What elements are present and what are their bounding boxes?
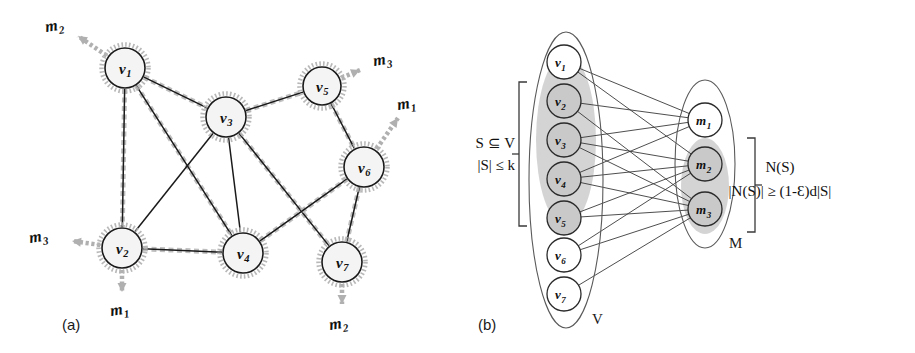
panel-caption-a: (a) (62, 316, 80, 333)
message-label-sub: 2 (57, 23, 66, 36)
subset-S-annotation-line2: |S| ≤ k (477, 157, 515, 173)
set-name-V: V (592, 311, 603, 327)
node-label-sub: 1 (707, 121, 712, 131)
node-V-v7[interactable]: v7 (547, 277, 581, 311)
edge-v1-v2 (122, 89, 124, 227)
edge-line (229, 138, 241, 232)
figure-svg: m2m3m1m3m1m2v1v2v3v4v5v6v7 v1v2v3v4v5v6v… (0, 0, 915, 353)
node-v4[interactable]: v4 (220, 230, 267, 277)
message-stub-arrowhead (350, 69, 360, 77)
bipartite-edge-v5-m3 (581, 210, 688, 217)
panel-b: v1v2v3v4v5v6v7m1m2m3VMS ⊆ V|S| ≤ kN(S)|N… (476, 32, 832, 328)
bipartite-edge-v4-m2 (581, 166, 688, 177)
edge-v3-v4 (229, 138, 241, 232)
figure-root: m2m3m1m3m1m2v1v2v3v4v5v6v7 v1v2v3v4v5v6v… (0, 0, 915, 353)
panel-a-nodes: v1v2v3v4v5v6v7 (99, 45, 388, 286)
edge-v6-v7 (347, 187, 360, 241)
node-label-sub: 1 (126, 68, 131, 79)
message-stub-arrowhead (72, 238, 82, 247)
message-label-sub: 1 (123, 307, 130, 320)
edge-line (331, 104, 354, 149)
node-label-sub: 2 (560, 102, 566, 112)
bipartite-edge-v7-m3 (579, 218, 691, 285)
node-M-m3[interactable]: m3 (688, 192, 722, 226)
bipartite-edge-v4-m1 (580, 127, 690, 173)
node-V-v2[interactable]: v2 (547, 84, 581, 118)
message-label-m1-at-v6: m1 (396, 93, 417, 116)
node-label-sub: 4 (560, 180, 566, 190)
node-label-sub: 7 (561, 295, 566, 305)
panel-b-set-names: VM (592, 235, 742, 327)
node-M-m2[interactable]: m2 (688, 147, 722, 181)
message-stub-m3-at-v2: m3 (28, 226, 100, 249)
node-V-v5[interactable]: v5 (547, 201, 581, 235)
node-V-v6[interactable]: v6 (547, 238, 581, 272)
node-label-sub: 3 (706, 210, 712, 220)
subset-S-bracket-path (519, 82, 527, 226)
node-label-sub: 6 (365, 167, 371, 178)
message-label-m3-at-v2: m3 (28, 226, 50, 249)
neighborhood-NS-annotation-line1: N(S) (765, 159, 794, 176)
message-stub-m1-at-v6: m1 (377, 93, 418, 149)
panel-caption-b: (b) (478, 316, 496, 333)
node-label-sub: 3 (226, 117, 232, 128)
edge-line (246, 92, 303, 110)
message-label-m1-at-v2: m1 (109, 299, 130, 322)
node-label-sub: 7 (343, 262, 349, 273)
node-label-sub: 5 (323, 86, 328, 97)
bipartite-edge-v3-m2 (581, 143, 688, 161)
message-stub-m2-at-v1: m2 (44, 15, 107, 55)
message-stub-arrowhead (118, 283, 127, 292)
set-name-M: M (729, 235, 742, 251)
panel-b-bipartite-edges (577, 68, 691, 285)
message-label-m2-at-v1: m2 (44, 15, 66, 38)
message-stub-m1-at-v2: m1 (109, 270, 130, 322)
message-label-sub: 3 (385, 57, 394, 70)
edge-v2-v4 (143, 249, 222, 252)
node-label-sub: 5 (561, 219, 566, 229)
edge-v3-v7 (239, 133, 329, 245)
node-v5[interactable]: v5 (300, 64, 345, 109)
message-stub-m2-at-v7: m2 (328, 284, 350, 336)
edge-v1-v3 (144, 77, 207, 108)
bipartite-edge-v3-m3 (579, 147, 689, 201)
bipartite-edge-v2-m1 (581, 103, 688, 117)
panel-a: m2m3m1m3m1m2v1v2v3v4v5v6v7 (28, 15, 417, 336)
edge-line (260, 179, 347, 241)
edge-v4-v6 (260, 179, 347, 241)
node-label-sub: 4 (243, 253, 249, 264)
bipartite-edge-v4-m3 (581, 183, 689, 206)
node-M-m1[interactable]: m1 (688, 103, 722, 137)
node-label-sub: 1 (561, 63, 566, 73)
edge-v5-v6 (331, 104, 354, 149)
subset-S-bracket (512, 82, 527, 226)
message-stub-arrowhead (389, 118, 398, 128)
node-v6[interactable]: v6 (341, 144, 388, 191)
bipartite-edge-v5-m2 (580, 170, 689, 212)
edge-line (144, 77, 207, 108)
message-label-sub: 2 (341, 321, 350, 334)
bipartite-edge-v6-m2 (578, 173, 690, 246)
node-v1[interactable]: v1 (102, 45, 149, 92)
message-label-sub: 3 (41, 234, 50, 247)
node-label-sub: 6 (561, 256, 566, 266)
node-V-v4[interactable]: v4 (547, 162, 581, 196)
node-label-sub: 2 (706, 165, 712, 175)
node-label-sub: 2 (122, 248, 129, 259)
bipartite-edge-v6-m3 (580, 214, 689, 249)
edge-v3-v5 (246, 92, 303, 110)
node-V-v3[interactable]: v3 (547, 123, 581, 157)
subset-S-annotation-line1: S ⊆ V (476, 135, 516, 151)
message-stub-arrowhead (338, 295, 347, 304)
edge-line (347, 187, 360, 241)
bipartite-edge-v3-m1 (581, 122, 688, 137)
message-stub-m3-at-v5: m3 (341, 49, 393, 78)
node-v2[interactable]: v2 (99, 225, 146, 272)
node-V-v1[interactable]: v1 (547, 45, 581, 79)
message-label-m2-at-v7: m2 (328, 313, 350, 336)
node-label-sub: 3 (560, 141, 566, 151)
message-label-sub: 1 (410, 101, 417, 114)
neighborhood-NS-annotation-line2: |N(S)| ≥ (1-Ɛ)d|S| (729, 183, 832, 200)
node-v3[interactable]: v3 (203, 94, 250, 141)
node-v7[interactable]: v7 (319, 239, 366, 286)
